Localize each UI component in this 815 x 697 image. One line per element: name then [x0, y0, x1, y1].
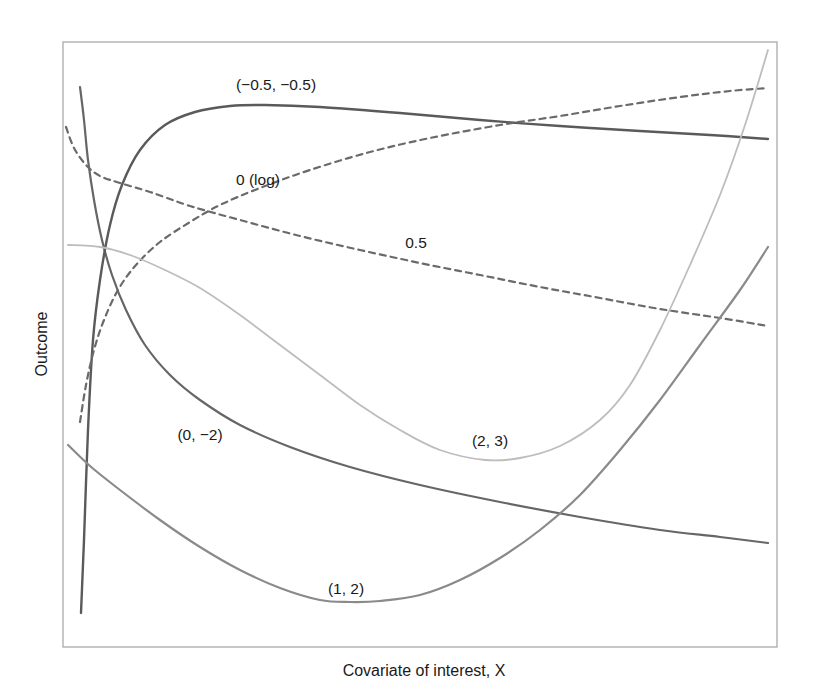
- y-axis-label: Outcome: [33, 311, 50, 376]
- chart-background: [0, 0, 815, 697]
- fractional-polynomial-chart: (−0.5, −0.5) 0 (log) 0.5 (0, −2) (2, 3) …: [0, 0, 815, 697]
- curve-label-two-three: (2, 3): [472, 432, 508, 449]
- curve-label-one-two: (1, 2): [328, 580, 364, 597]
- x-axis-label: Covariate of interest, X: [343, 662, 506, 679]
- curve-label-half: 0.5: [405, 234, 427, 251]
- curve-label-log: 0 (log): [236, 171, 280, 188]
- curve-label-neg05-neg05: (−0.5, −0.5): [236, 76, 316, 93]
- curve-label-zero-neg2: (0, −2): [177, 426, 222, 443]
